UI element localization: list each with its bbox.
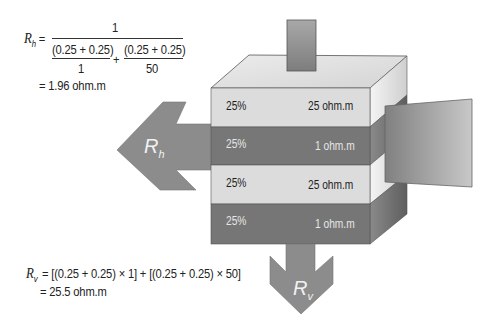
rh-symbol: R <box>144 135 158 157</box>
rh-term1-denominator: 1 <box>78 61 84 76</box>
rh-lhs-sub: h <box>32 39 36 49</box>
rh-term2-numerator: (0.25 + 0.25) <box>124 42 185 57</box>
vertical-flow-bar-top <box>287 20 316 71</box>
rv-lhs: Rv <box>26 265 37 284</box>
horizontal-flow-arrow <box>117 102 214 190</box>
layer-1-fraction: 25% <box>226 99 246 113</box>
horizontal-flow-panel-right <box>385 99 472 187</box>
rh-lhs-symbol: R <box>24 30 32 46</box>
layer-2-resistivity: 1 ohm.m <box>315 139 355 153</box>
rv-subscript: v <box>307 290 313 302</box>
rv-lhs-sub: v <box>34 274 38 284</box>
rv-result: = 25.5 ohm.m <box>40 284 107 299</box>
rh-term2-fraction-bar <box>124 58 183 59</box>
vertical-arrow-label: Rv <box>293 277 313 302</box>
rh-term1-numerator: (0.25 + 0.25) <box>52 42 113 57</box>
rv-symbol: R <box>293 277 307 299</box>
rh-equals: = <box>39 31 45 46</box>
layer-3-fraction: 25% <box>226 176 246 190</box>
rv-expression: = [(0.25 + 0.25) × 1] + [(0.25 + 0.25) ×… <box>42 266 241 281</box>
layer-4-fraction: 25% <box>226 214 246 228</box>
horizontal-arrow-label: Rh <box>144 135 165 160</box>
layer-2-fraction: 25% <box>226 137 246 151</box>
layer-4-resistivity: 1 ohm.m <box>315 217 355 231</box>
rh-term2-denominator: 50 <box>146 61 158 76</box>
layer-3-resistivity: 25 ohm.m <box>308 178 353 192</box>
rh-result: = 1.96 ohm.m <box>39 78 106 93</box>
rv-lhs-symbol: R <box>26 265 34 281</box>
rh-numerator: 1 <box>112 20 118 35</box>
rh-term1-fraction-bar <box>52 58 110 59</box>
rh-subscript: h <box>158 148 164 160</box>
rh-main-fraction-bar <box>52 38 183 39</box>
rh-plus: + <box>113 52 119 67</box>
rh-lhs: Rh = <box>24 30 45 49</box>
layer-1-resistivity: 25 ohm.m <box>308 99 353 113</box>
